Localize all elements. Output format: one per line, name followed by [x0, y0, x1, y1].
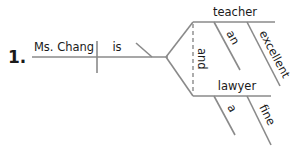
complement-slash	[136, 43, 152, 57]
complement-word-teacher: teacher	[213, 5, 257, 19]
conjunction-word: and	[195, 48, 209, 70]
modifier-word-fine: fine	[256, 102, 278, 128]
modifier-line-a	[214, 96, 235, 135]
fork-upper-branch	[166, 22, 193, 57]
fork-lower-branch	[166, 57, 193, 96]
verb-word: is	[112, 40, 121, 54]
complement-word-lawyer: lawyer	[218, 79, 257, 93]
modifier-word-excellent: excellent	[256, 28, 293, 81]
item-number: 1.	[8, 47, 26, 67]
sentence-diagram: 1. Ms. Chang is teacher lawyer and an ex…	[0, 0, 301, 151]
subject-word: Ms. Chang	[34, 40, 94, 54]
modifier-word-a: a	[224, 102, 240, 115]
